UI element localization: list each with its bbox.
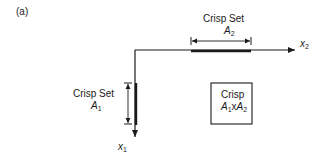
a2-symbol-letter: A	[224, 25, 231, 36]
x1-axis-label: x1	[118, 141, 127, 155]
a1-symbol-sub: 1	[98, 105, 102, 112]
a2-symbol: A2	[224, 25, 235, 39]
x1-sub: 1	[123, 146, 127, 153]
term1: A	[221, 101, 228, 112]
product-box-expression: A1xA2	[221, 101, 247, 115]
a2-title: Crisp Set	[203, 13, 244, 24]
a1-symbol-letter: A	[91, 100, 98, 111]
term2-sub: 2	[243, 106, 247, 113]
x2-axis-label: x2	[300, 38, 309, 52]
diagram-canvas	[0, 0, 330, 166]
a1-title: Crisp Set	[73, 88, 114, 99]
x2-sub: 2	[305, 43, 309, 50]
panel-label: (a)	[16, 6, 28, 17]
a1-symbol: A1	[91, 100, 102, 114]
product-box-title: Crisp	[221, 89, 244, 100]
a2-symbol-sub: 2	[231, 30, 235, 37]
